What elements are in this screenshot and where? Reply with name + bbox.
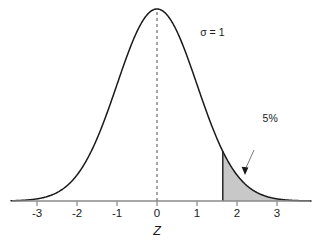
- sigma-annotation-label: σ = 1: [200, 26, 224, 38]
- x-axis-tick-label: 3: [274, 207, 280, 219]
- x-axis-tick-label: 0: [154, 207, 160, 219]
- normal-distribution-chart: -3-2-10123 Z σ = 1 5%: [0, 0, 323, 243]
- x-axis-tick-label: 2: [234, 207, 240, 219]
- x-axis-tick-label: -2: [72, 207, 82, 219]
- x-axis-tick-label: -1: [112, 207, 122, 219]
- x-axis-tick-label: 1: [194, 207, 200, 219]
- x-axis-tick-label: -3: [32, 207, 42, 219]
- x-axis-title: Z: [152, 224, 161, 238]
- tail-percent-label: 5%: [263, 112, 278, 124]
